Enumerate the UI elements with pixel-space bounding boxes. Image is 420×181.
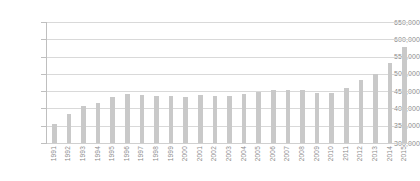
- x-tick-label: 2012: [357, 146, 364, 161]
- x-tick-label: 2009: [314, 146, 321, 161]
- bar: [359, 80, 364, 143]
- gridline: [47, 39, 412, 40]
- x-tick-label: 2006: [270, 146, 277, 161]
- bar: [242, 94, 247, 143]
- x-tick-label: 2015: [401, 146, 408, 161]
- x-tick-label: 2010: [328, 146, 335, 161]
- y-tick-mark: [41, 22, 46, 23]
- x-tick-label: 2002: [211, 146, 218, 161]
- y-tick-mark: [41, 74, 46, 75]
- gridline: [47, 57, 412, 58]
- gridline: [47, 143, 412, 144]
- x-tick-label: 1997: [138, 146, 145, 161]
- x-tick-label: 2001: [197, 146, 204, 161]
- bar-chart: 650,000600,000550,000500,000450,000400,0…: [0, 0, 420, 181]
- gridline: [47, 74, 412, 75]
- x-tick-label: 1993: [80, 146, 87, 161]
- bar: [315, 93, 320, 143]
- bar: [81, 106, 86, 143]
- x-tick-label: 2000: [182, 146, 189, 161]
- bar: [271, 90, 276, 143]
- bar: [227, 96, 232, 143]
- bar: [344, 88, 349, 143]
- x-tick-label: 2003: [226, 146, 233, 161]
- bar: [198, 95, 203, 143]
- x-tick-label: 2004: [241, 146, 248, 161]
- bar: [286, 90, 291, 143]
- bar: [169, 96, 174, 143]
- bar: [256, 92, 261, 144]
- bar: [300, 90, 305, 143]
- y-tick-mark: [41, 57, 46, 58]
- y-tick-mark: [41, 126, 46, 127]
- bar: [52, 124, 57, 143]
- y-tick-mark: [41, 143, 46, 144]
- bar: [110, 97, 115, 143]
- bar: [329, 93, 334, 143]
- x-tick-label: 1998: [153, 146, 160, 161]
- x-tick-label: 2005: [255, 146, 262, 161]
- x-tick-label: 1996: [124, 146, 131, 161]
- bar: [125, 94, 130, 143]
- x-tick-label: 1991: [51, 146, 58, 161]
- gridline: [47, 91, 412, 92]
- x-tick-label: 2007: [284, 146, 291, 161]
- y-tick-mark: [41, 91, 46, 92]
- x-tick-label: 2013: [372, 146, 379, 161]
- plot-area: [47, 22, 412, 143]
- y-tick-mark: [41, 39, 46, 40]
- x-tick-label: 1995: [109, 146, 116, 161]
- bar: [183, 97, 188, 143]
- bar: [96, 103, 101, 143]
- bar: [67, 114, 72, 143]
- y-tick-mark: [41, 108, 46, 109]
- x-tick-label: 2011: [343, 146, 350, 161]
- x-tick-label: 2008: [299, 146, 306, 161]
- bar: [140, 95, 145, 143]
- gridline: [47, 22, 412, 23]
- x-tick-label: 2014: [387, 146, 394, 161]
- x-tick-label: 1994: [95, 146, 102, 161]
- bar: [402, 47, 407, 143]
- bar: [154, 96, 159, 143]
- x-tick-label: 1999: [168, 146, 175, 161]
- bar: [388, 63, 393, 143]
- bar: [213, 96, 218, 143]
- x-tick-label: 1992: [65, 146, 72, 161]
- bar: [373, 74, 378, 143]
